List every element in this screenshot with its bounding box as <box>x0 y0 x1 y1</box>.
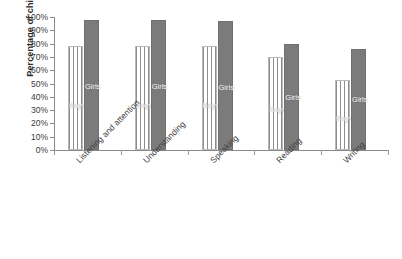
bar-series-label: Boys <box>269 105 282 114</box>
x-axis-separator <box>388 150 389 155</box>
y-axis-tick-label: 20% <box>31 118 48 128</box>
y-axis-tick-label: 70% <box>31 52 48 62</box>
bar-series-label: Girls <box>285 93 298 102</box>
y-axis-tick <box>50 123 54 124</box>
y-axis-tick-label: 50% <box>31 79 48 89</box>
bar-boys[interactable]: Boys <box>135 46 150 150</box>
x-axis-separator <box>54 150 55 155</box>
y-axis-tick-label: 0% <box>36 145 48 155</box>
y-axis-tick <box>50 57 54 58</box>
y-axis-tick <box>50 97 54 98</box>
bar-boys[interactable]: Boys <box>68 46 83 150</box>
bar-boys[interactable]: Boys <box>335 80 350 150</box>
bar-girls[interactable]: Girls <box>151 20 166 150</box>
y-axis-tick-label: 10% <box>31 132 48 142</box>
y-axis-line <box>54 17 55 151</box>
bar-series-label: Boys <box>203 101 216 110</box>
y-axis-tick <box>50 44 54 45</box>
bar-series-label: Girls <box>152 82 165 91</box>
bar-series-label: Girls <box>352 95 365 104</box>
bar-group: BoysGirls <box>135 17 166 150</box>
y-axis-tick-label: 90% <box>31 25 48 35</box>
bar-boys[interactable]: Boys <box>268 57 283 150</box>
y-axis-tick <box>50 84 54 85</box>
y-axis-tick <box>50 110 54 111</box>
bar-girls[interactable]: Girls <box>284 44 299 150</box>
y-axis-tick-label: 40% <box>31 92 48 102</box>
y-axis-tick <box>50 17 54 18</box>
x-axis-separator <box>121 150 122 155</box>
bar-group: BoysGirls <box>335 17 366 150</box>
y-axis-tick-label: 30% <box>31 105 48 115</box>
y-axis-tick <box>50 30 54 31</box>
x-axis-separator <box>188 150 189 155</box>
bar-series-label: Boys <box>69 101 82 110</box>
bar-series-label: Girls <box>219 83 232 92</box>
x-axis-separator <box>254 150 255 155</box>
bar-group: BoysGirls <box>68 17 99 150</box>
y-axis-tick-label: 80% <box>31 39 48 49</box>
bar-group: BoysGirls <box>202 17 233 150</box>
y-axis-tick-label: 60% <box>31 65 48 75</box>
bar-girls[interactable]: Girls <box>351 49 366 150</box>
bar-chart: Percentage of children 0%10%20%30%40%50%… <box>0 0 402 259</box>
bar-girls[interactable]: Girls <box>84 20 99 150</box>
bar-series-label: Boys <box>336 114 349 123</box>
bar-group: BoysGirls <box>268 17 299 150</box>
x-axis-separator <box>321 150 322 155</box>
bar-girls[interactable]: Girls <box>218 21 233 150</box>
y-axis-tick <box>50 70 54 71</box>
bar-boys[interactable]: Boys <box>202 46 217 150</box>
y-axis-tick <box>50 137 54 138</box>
bar-series-label: Girls <box>85 82 98 91</box>
y-axis-tick-label: 100% <box>26 12 48 22</box>
